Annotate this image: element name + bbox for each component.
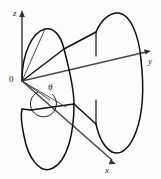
- x-axis-arrowhead: [109, 159, 116, 164]
- coordinate-diagram: z y x 0 θ: [0, 0, 161, 179]
- x-axis-label: x: [104, 165, 109, 175]
- y-axis-arrowhead: [144, 49, 151, 54]
- construction-lines-group: [22, 29, 66, 107]
- near-circle-right-arc: [64, 49, 74, 104]
- radius-line-b: [22, 81, 50, 100]
- theta-angle-label: θ: [48, 82, 53, 92]
- near-circle-lower-arc: [21, 104, 74, 170]
- slot-upper-edge: [64, 32, 96, 49]
- slot-lower-edge: [74, 104, 96, 124]
- far-circle-right-arc: [112, 60, 143, 153]
- z-axis-label: z: [12, 8, 17, 18]
- origin-label: 0: [9, 74, 14, 84]
- radius-line-a: [22, 81, 66, 107]
- slot-bottom-left-edge: [22, 109, 31, 110]
- near-circle-group: [21, 29, 74, 170]
- slot-bottom-face-edge: [31, 104, 74, 110]
- far-circle-upper-arc: [96, 13, 141, 60]
- figure-container: z y x 0 θ: [0, 0, 161, 179]
- z-axis-arrowhead: [19, 10, 25, 17]
- far-circle-group: [96, 13, 143, 153]
- y-axis-label: y: [147, 56, 152, 66]
